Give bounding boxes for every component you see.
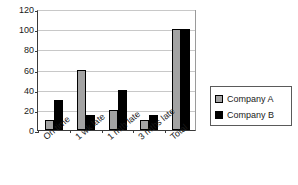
legend-item: Company B <box>215 107 288 123</box>
series-b-swatch <box>215 111 223 119</box>
series-a-swatch <box>215 95 223 103</box>
x-axis-category-label: 1 wk late <box>74 112 107 142</box>
bar-chart: 020406080100120 On time1 wk late1 mth la… <box>0 0 298 185</box>
legend-item-label: Company B <box>227 111 274 120</box>
legend-item: Company A <box>215 91 288 107</box>
x-axis-category-label: On time <box>42 115 72 142</box>
chart-legend: Company ACompany B <box>210 86 292 126</box>
legend-item-label: Company A <box>227 95 274 104</box>
x-axis-category-label: 1 mth late <box>106 110 142 142</box>
x-axis-category-label: Total <box>169 123 189 142</box>
